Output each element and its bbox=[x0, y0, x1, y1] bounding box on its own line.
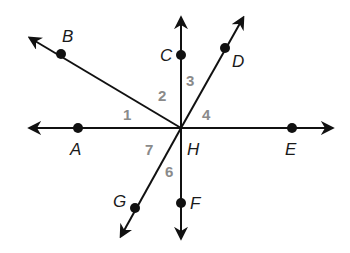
point-c-dot bbox=[176, 50, 186, 60]
point-f-dot bbox=[176, 198, 186, 208]
label-point-a: A bbox=[69, 140, 81, 159]
point-a-dot bbox=[73, 123, 83, 133]
angle-label-7: 7 bbox=[145, 141, 153, 158]
geometry-diagram: A B C D E F G H 1 2 3 4 7 6 bbox=[0, 0, 350, 253]
label-point-c: C bbox=[160, 46, 173, 65]
label-point-f: F bbox=[190, 194, 202, 213]
label-vertex-h: H bbox=[187, 140, 200, 159]
label-point-d: D bbox=[232, 52, 244, 71]
label-point-b: B bbox=[62, 27, 73, 46]
angle-label-1: 1 bbox=[123, 106, 131, 123]
angle-label-2: 2 bbox=[158, 87, 166, 104]
label-point-g: G bbox=[113, 192, 126, 211]
point-g-dot bbox=[130, 203, 140, 213]
ray-hb bbox=[30, 38, 181, 128]
angle-label-4: 4 bbox=[202, 106, 211, 123]
angle-label-3: 3 bbox=[186, 72, 194, 89]
point-e-dot bbox=[287, 123, 297, 133]
label-point-e: E bbox=[285, 140, 297, 159]
point-d-dot bbox=[220, 43, 230, 53]
point-b-dot bbox=[56, 49, 66, 59]
angle-label-6: 6 bbox=[165, 163, 173, 180]
